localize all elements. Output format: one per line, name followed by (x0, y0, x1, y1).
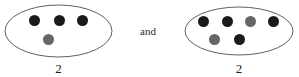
dot-groups-figure: 2 2 and (0, 0, 299, 77)
counter-dot-dark (268, 16, 279, 27)
group-count-label: 2 (209, 62, 269, 75)
group-right: 2 (0, 0, 299, 77)
counter-dot-dark (222, 16, 233, 27)
counter-dot-dark (234, 34, 245, 45)
counter-dot-dark (198, 16, 209, 27)
counter-dot-gray (209, 34, 220, 45)
conjunction-label: and (128, 26, 168, 37)
counter-dot-gray (245, 16, 256, 27)
